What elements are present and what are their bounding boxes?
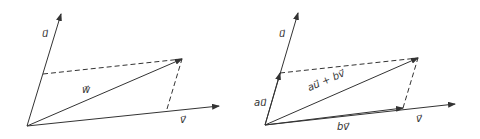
label-u: u⃗ [279, 28, 285, 39]
left-diagram [27, 14, 219, 126]
label-au: au⃗ [254, 97, 266, 108]
vector-v-arrow [27, 106, 219, 126]
vector-diagram-canvas [0, 0, 480, 139]
vector-w-arrow [27, 59, 182, 126]
right-diagram [265, 13, 455, 125]
vector-au-arrow [265, 73, 280, 125]
label-v: v⃗ [180, 114, 186, 125]
dashed-projection-u [280, 58, 418, 73]
vector-bv-arrow [265, 108, 403, 125]
label-bv: bv⃗ [337, 121, 349, 132]
label-u: u⃗ [42, 28, 48, 39]
dashed-projection-v [403, 58, 418, 108]
dashed-projection-u [43, 59, 182, 74]
label-v: v⃗ [416, 113, 422, 124]
label-w: w⃗ [82, 84, 90, 95]
dashed-projection-v [167, 59, 182, 109]
